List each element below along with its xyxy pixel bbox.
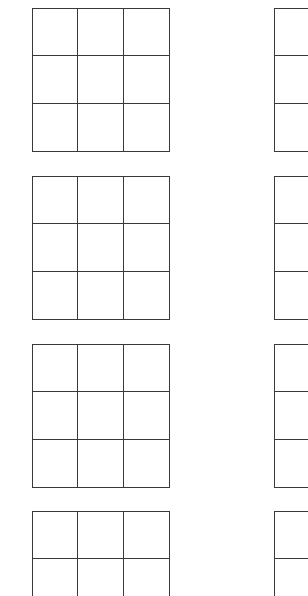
board-cell[interactable]: [124, 345, 169, 392]
board-cell[interactable]: [275, 392, 308, 439]
board-cell[interactable]: [124, 104, 169, 151]
tic-tac-toe-board: [274, 344, 308, 488]
board-cell[interactable]: [78, 224, 123, 271]
board-cell[interactable]: [33, 440, 78, 487]
board-cell[interactable]: [275, 272, 308, 319]
board-cell[interactable]: [275, 224, 308, 271]
board-cell[interactable]: [124, 9, 169, 56]
board-cell[interactable]: [124, 272, 169, 319]
board-cell[interactable]: [124, 177, 169, 224]
board-cell[interactable]: [275, 559, 308, 596]
tic-tac-toe-board: [32, 8, 170, 152]
board-cell[interactable]: [33, 224, 78, 271]
board-cell[interactable]: [124, 440, 169, 487]
board-cell[interactable]: [124, 559, 169, 596]
board-cell[interactable]: [275, 56, 308, 103]
board-cell[interactable]: [78, 512, 123, 559]
board-cell[interactable]: [78, 345, 123, 392]
tic-tac-toe-board: [274, 176, 308, 320]
board-cell[interactable]: [33, 272, 78, 319]
board-cell[interactable]: [78, 559, 123, 596]
board-cell[interactable]: [275, 104, 308, 151]
board-cell[interactable]: [33, 9, 78, 56]
board-cell[interactable]: [275, 440, 308, 487]
board-cell[interactable]: [124, 512, 169, 559]
board-cell[interactable]: [33, 104, 78, 151]
board-cell[interactable]: [78, 104, 123, 151]
board-cell[interactable]: [124, 392, 169, 439]
board-cell[interactable]: [275, 345, 308, 392]
board-cell[interactable]: [33, 177, 78, 224]
board-cell[interactable]: [33, 512, 78, 559]
board-cell[interactable]: [33, 56, 78, 103]
board-cell[interactable]: [33, 392, 78, 439]
board-cell[interactable]: [78, 177, 123, 224]
tic-tac-toe-board: [32, 176, 170, 320]
board-cell[interactable]: [33, 559, 78, 596]
tic-tac-toe-board: [32, 511, 170, 596]
board-cell[interactable]: [124, 224, 169, 271]
board-cell[interactable]: [78, 272, 123, 319]
tic-tac-toe-board: [32, 344, 170, 488]
board-cell[interactable]: [78, 440, 123, 487]
board-cell[interactable]: [78, 56, 123, 103]
board-cell[interactable]: [33, 345, 78, 392]
tic-tac-toe-board: [274, 8, 308, 152]
board-cell[interactable]: [275, 177, 308, 224]
board-cell[interactable]: [275, 512, 308, 559]
board-cell[interactable]: [78, 9, 123, 56]
board-cell[interactable]: [124, 56, 169, 103]
board-cell[interactable]: [78, 392, 123, 439]
board-cell[interactable]: [275, 9, 308, 56]
tic-tac-toe-board: [274, 511, 308, 596]
